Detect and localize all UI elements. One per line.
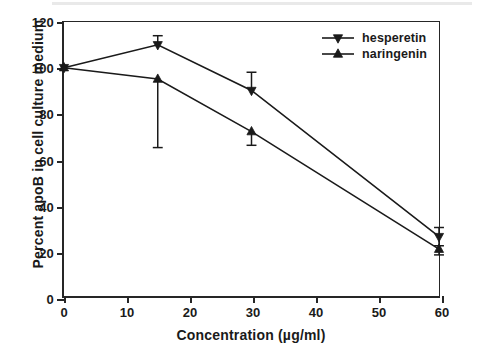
legend-item-hesperetin: hesperetin	[321, 30, 427, 45]
triangle-down-icon	[434, 233, 443, 241]
x-tick	[127, 296, 129, 303]
plot-area: 020406080100120 0102030405060 hesperetin…	[62, 21, 440, 298]
chart-legend: hesperetinnaringenin	[317, 28, 431, 63]
triangle-down-icon	[247, 87, 256, 95]
y-tick	[57, 299, 64, 301]
y-tick	[57, 253, 64, 255]
x-tick-label: 20	[183, 305, 197, 320]
x-tick	[379, 296, 381, 303]
x-tick	[64, 296, 66, 303]
x-tick-label: 50	[372, 305, 386, 320]
y-tick	[57, 207, 64, 209]
x-tick	[190, 296, 192, 303]
triangle-up-icon	[321, 47, 355, 61]
chart-figure: 020406080100120 0102030405060 hesperetin…	[0, 0, 478, 352]
x-tick-label: 10	[120, 305, 134, 320]
x-axis-title: Concentration (µg/ml)	[62, 327, 440, 343]
data-series-layer	[64, 22, 439, 296]
y-tick	[57, 161, 64, 163]
x-tick	[316, 296, 318, 303]
x-tick-label: 60	[435, 305, 449, 320]
x-tick-label: 40	[309, 305, 323, 320]
y-tick-label: 0	[47, 292, 54, 307]
y-axis-title: Percent apoB in cell culture medium	[30, 0, 46, 294]
legend-label: naringenin	[362, 47, 427, 61]
x-tick	[253, 296, 255, 303]
y-tick	[57, 22, 64, 24]
x-tick-label: 30	[246, 305, 260, 320]
legend-item-naringenin: naringenin	[321, 46, 427, 61]
x-tick-label: 0	[60, 305, 67, 320]
x-tick	[442, 296, 444, 303]
legend-label: hesperetin	[362, 31, 426, 45]
y-tick	[57, 114, 64, 116]
triangle-down-icon	[321, 31, 355, 45]
